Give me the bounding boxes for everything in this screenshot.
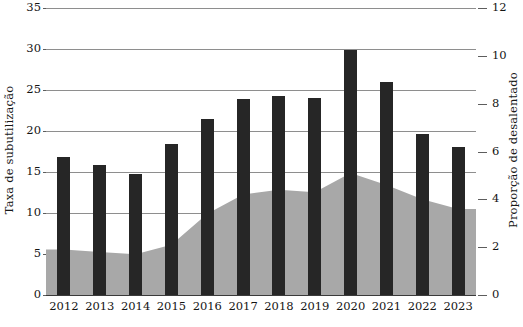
bar — [57, 157, 70, 295]
bar — [93, 165, 106, 295]
y-axis-left-tick-label: 10 — [19, 207, 41, 219]
y-axis-right-tick-mark — [478, 56, 487, 57]
bar — [272, 96, 285, 295]
x-axis-tick-label: 2016 — [193, 299, 222, 313]
bar-series-subutilizacao — [46, 8, 476, 295]
bar — [344, 50, 357, 295]
y-axis-left-tick-label: 25 — [19, 84, 41, 96]
y-axis-left-tick-label: 35 — [19, 2, 41, 14]
x-axis-baseline — [46, 295, 476, 297]
y-axis-right-tick-label: 0 — [492, 289, 516, 301]
y-axis-right-ticks: 024681012 — [478, 0, 502, 327]
y-axis-right-tick-label: 2 — [492, 241, 516, 253]
bar — [165, 144, 178, 295]
y-axis-right-tick-label: 12 — [492, 2, 516, 14]
x-axis-tick-label: 2021 — [372, 299, 401, 313]
y-axis-right-tick-mark — [478, 152, 487, 153]
y-axis-right-tick-mark — [478, 295, 487, 296]
x-axis-tick-label: 2018 — [264, 299, 293, 313]
y-axis-left-tick-label: 15 — [19, 166, 41, 178]
x-axis-tick-label: 2012 — [49, 299, 78, 313]
bar — [129, 174, 142, 295]
y-axis-right-tick-label: 10 — [492, 50, 516, 62]
x-axis-tick-label: 2015 — [157, 299, 186, 313]
x-axis-tick-label: 2023 — [443, 299, 472, 313]
x-axis-labels: 2012201320142015201620172018201920202021… — [46, 299, 476, 319]
y-axis-right-tick-label: 8 — [492, 98, 516, 110]
bar — [237, 99, 250, 295]
y-axis-right-tick-mark — [478, 199, 487, 200]
y-axis-right-tick-label: 4 — [492, 193, 516, 205]
x-axis-tick-label: 2017 — [228, 299, 257, 313]
y-axis-right-tick-mark — [478, 8, 487, 9]
chart-container: Taxa de subutilização Proporção de desal… — [0, 0, 523, 327]
x-axis-tick-label: 2019 — [300, 299, 329, 313]
bar — [416, 134, 429, 296]
bar — [201, 119, 214, 295]
bar — [308, 98, 321, 295]
y-axis-left-title-text: Taxa de subutilização — [2, 86, 16, 214]
y-axis-right-tick-mark — [478, 247, 487, 248]
bar — [452, 147, 465, 295]
bar — [380, 82, 393, 295]
plot-area — [46, 8, 476, 295]
y-axis-right-tick-label: 6 — [492, 146, 516, 158]
x-axis-tick-label: 2020 — [336, 299, 365, 313]
y-axis-left-tick-label: 30 — [19, 43, 41, 55]
y-axis-left-tick-label: 5 — [19, 248, 41, 260]
y-axis-left-tick-label: 0 — [19, 289, 41, 301]
y-axis-left-ticks: 05101520253035 — [19, 0, 41, 327]
x-axis-tick-label: 2022 — [408, 299, 437, 313]
y-axis-right-tick-mark — [478, 104, 487, 105]
y-axis-left-tick-label: 20 — [19, 125, 41, 137]
x-axis-tick-label: 2014 — [121, 299, 150, 313]
x-axis-tick-label: 2013 — [85, 299, 114, 313]
y-axis-left-title: Taxa de subutilização — [0, 0, 18, 300]
